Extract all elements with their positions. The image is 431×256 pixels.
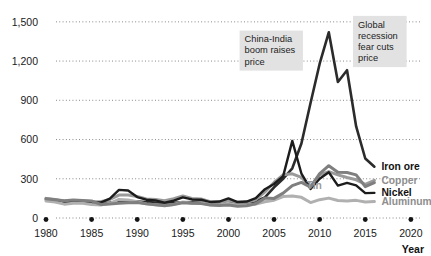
x-axis-tick-dot [89,217,94,222]
annotation-text-line: Global [358,20,385,30]
annotation-text-line: recession [358,31,398,41]
y-axis-tick-label: 900 [20,94,38,106]
y-axis-tick-label: 0 [32,212,38,224]
y-axis-tick-label: 1,500 [12,16,38,28]
x-axis-tick-label: 1995 [171,227,195,239]
x-axis-title-group: Year [402,243,424,255]
x-axis-tick-label: 2010 [308,227,332,239]
metal-prices-line-chart: 03006009001,2001,500 1980198519901995200… [0,0,431,256]
annotation-text-line: fear cuts [358,42,394,52]
x-axis-tick-label: 1980 [34,227,58,239]
annotation-text-line: boom raises [245,45,296,55]
y-axis-tick-label: 300 [20,173,38,185]
series-lines-group [46,32,374,206]
x-axis-tick-dot [408,217,413,222]
chart-canvas: 03006009001,2001,500 1980198519901995200… [0,0,431,256]
y-axis-tick-label: 1,200 [12,55,38,67]
y-axis-labels-group: 03006009001,2001,500 [12,16,38,224]
chart-annotation: Globalrecessionfear cutsprice [353,16,407,67]
legend-label-copper: Copper [381,175,417,186]
x-axis-tick-label: 2000 [217,227,241,239]
annotation-text-line: China-India [245,34,293,44]
chart-annotation: China-Indiaboom raisesprice [240,31,303,71]
annotation-text-line: price [245,57,265,67]
legend-label-aluminum: Aluminum [381,196,431,207]
annotations-group: China-Indiaboom raisespriceGlobalrecessi… [240,16,407,71]
x-axis-tick-dot [363,217,368,222]
legend-group: Iron oreCopperNickelAluminum [381,161,431,207]
series-line-iron-ore [46,32,374,203]
x-axis-tick-dot [44,217,49,222]
inline-series-labels-group: Tin [307,180,322,191]
annotation-text-line: price [358,53,378,63]
x-axis-tick-dot [180,217,185,222]
x-axis-tick-label: 1985 [80,227,104,239]
x-axis-tick-label: 2020 [399,227,423,239]
legend-label-iron-ore: Iron ore [381,161,420,172]
x-axis-labels-group: 198019851990199520002005201020152020 [34,227,422,239]
x-axis-title: Year [402,243,424,255]
x-axis-tick-label: 2015 [354,227,378,239]
x-axis-tick-dot [226,217,231,222]
x-axis-tick-dot [272,217,277,222]
y-axis-tick-label: 600 [20,133,38,145]
x-axis-tick-dot [135,217,140,222]
inline-series-label-tin: Tin [307,180,322,191]
x-axis-tick-label: 2005 [262,227,286,239]
x-axis-tick-label: 1990 [126,227,150,239]
x-axis-tick-dot [317,217,322,222]
